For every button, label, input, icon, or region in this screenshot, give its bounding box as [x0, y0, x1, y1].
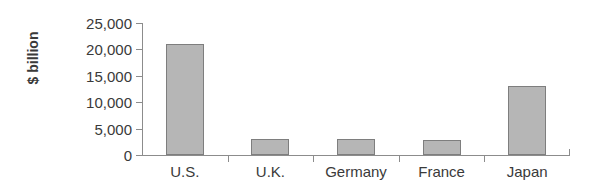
- y-axis-tick-label: 10,000: [56, 95, 132, 110]
- bar-japan: [508, 86, 546, 155]
- y-axis-tick-label: 15,000: [56, 68, 132, 83]
- plot-area: [142, 23, 570, 155]
- y-axis-tick-label: 25,000: [56, 16, 132, 31]
- x-axis-tick-mark: [313, 156, 314, 162]
- y-axis-tick-mark: [136, 129, 142, 130]
- x-axis-category-labels: U.S.U.K.GermanyFranceJapan: [142, 163, 570, 193]
- x-axis-label-germany: Germany: [325, 163, 387, 180]
- x-axis-label-japan: Japan: [507, 163, 548, 180]
- x-axis-tick-mark: [399, 156, 400, 162]
- y-axis-tick-mark: [136, 155, 142, 156]
- x-axis-label-france: France: [418, 163, 465, 180]
- x-axis-label-us: U.S.: [170, 163, 199, 180]
- x-axis-line: [142, 155, 570, 156]
- y-axis-title: $ billion: [25, 8, 41, 108]
- y-axis-tick-mark: [136, 76, 142, 77]
- y-axis-tick-labels: 05,00010,00015,00020,00025,000: [56, 0, 132, 195]
- bar-germany: [337, 139, 375, 155]
- bar-france: [423, 140, 461, 155]
- y-axis-tick-mark: [136, 49, 142, 50]
- x-axis-tick-mark: [484, 156, 485, 162]
- x-axis-label-uk: U.K.: [256, 163, 285, 180]
- bar-us: [166, 44, 204, 155]
- bar-uk: [251, 139, 289, 155]
- y-axis-tick-label: 20,000: [56, 42, 132, 57]
- x-axis-tick-mark: [228, 156, 229, 162]
- x-axis-end-tick: [569, 149, 570, 156]
- y-axis-tick-mark: [136, 23, 142, 24]
- y-axis-tick-mark: [136, 102, 142, 103]
- y-axis-tick-label: 5,000: [56, 121, 132, 136]
- bar-chart: $ billion 05,00010,00015,00020,00025,000…: [0, 0, 593, 195]
- y-axis-line: [142, 23, 143, 156]
- y-axis-tick-label: 0: [56, 148, 132, 163]
